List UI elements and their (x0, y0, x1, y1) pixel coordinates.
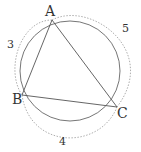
vertex-label-a: A (44, 3, 56, 19)
side-length-bc: 4 (59, 135, 66, 148)
side-length-ab: 3 (7, 38, 14, 51)
dashed-arc-ab (15, 20, 52, 95)
side-length-ca: 5 (122, 22, 129, 35)
triangle-circle-diagram: A B C 3 5 4 (0, 0, 141, 152)
vertex-label-b: B (12, 91, 22, 107)
circumcircle (20, 21, 120, 121)
vertex-label-c: C (117, 105, 128, 121)
